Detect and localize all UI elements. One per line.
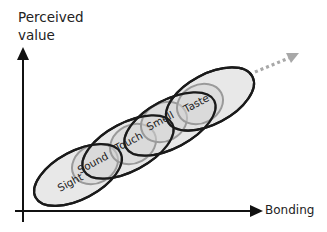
y-axis	[17, 47, 29, 222]
diagram-canvas: Sight Sound Touch Smell Taste Perceived …	[0, 0, 327, 232]
x-axis-arrow-icon	[250, 205, 263, 217]
x-axis-label: Bonding	[265, 204, 314, 216]
dotted-trend-arrow-icon	[255, 53, 299, 72]
y-axis-label-line1: Perceived	[18, 11, 84, 25]
y-axis-label-line2: value	[18, 29, 55, 43]
y-axis-arrow-icon	[17, 47, 29, 60]
